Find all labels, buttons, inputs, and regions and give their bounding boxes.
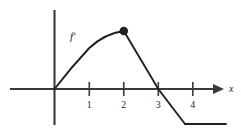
curve-increasing-segment — [55, 31, 124, 89]
x-axis-label: x — [229, 84, 233, 94]
tick-label-2: 2 — [117, 100, 131, 110]
tick-label-3: 3 — [151, 100, 165, 110]
tick-label-1: 1 — [82, 100, 96, 110]
graph-figure: 1 2 3 4 x f′ — [0, 0, 241, 136]
curve-descending-segment — [124, 31, 185, 124]
curve-label-f-prime: f′ — [70, 31, 75, 42]
tick-label-4: 4 — [186, 100, 200, 110]
maximum-point-dot — [120, 27, 129, 36]
graph-canvas — [0, 0, 241, 136]
x-axis-arrowhead — [213, 84, 224, 94]
